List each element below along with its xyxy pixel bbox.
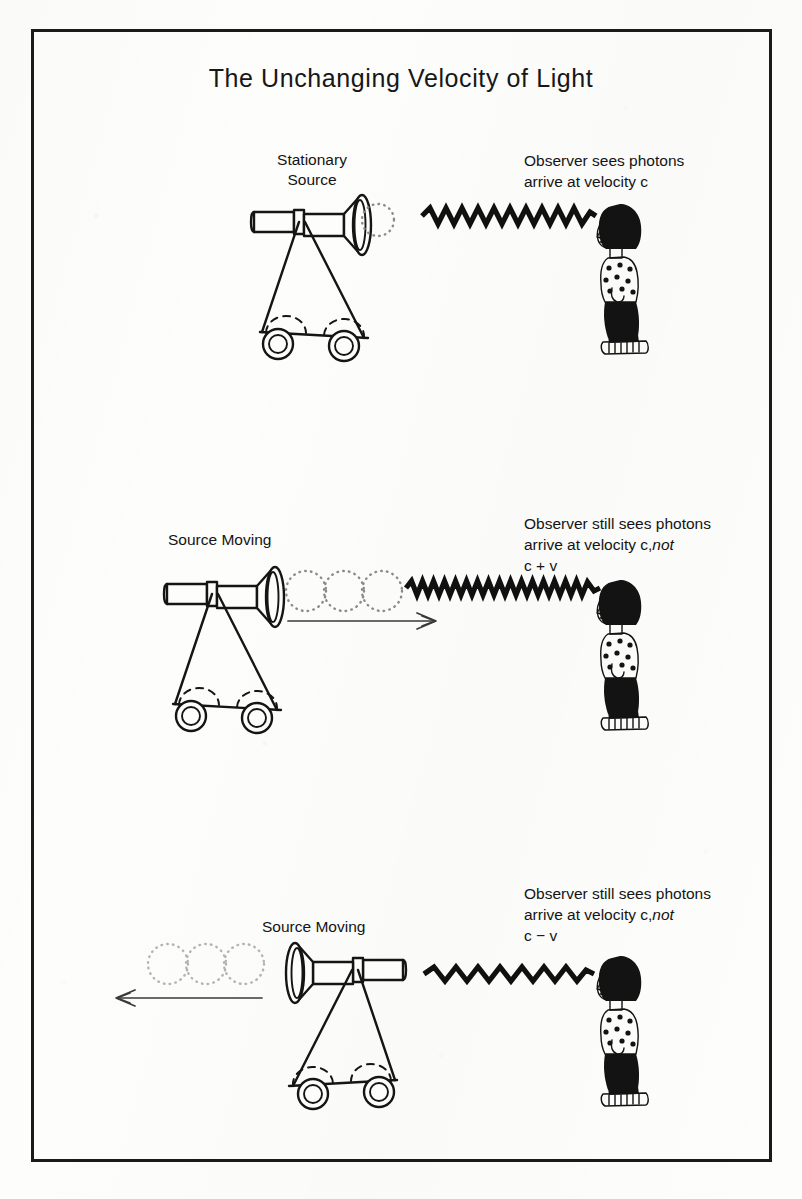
- observer-text-emphasis: not: [652, 906, 674, 923]
- panel-stationary-source-label: Stationary Source: [232, 150, 392, 190]
- motion-arrow-icon: [286, 608, 442, 634]
- observer-text-line-2: arrive at velocity c,not: [524, 534, 769, 555]
- panel-receding-observer-text: Observer still sees photons arrive at ve…: [524, 883, 769, 946]
- light-source-cart-icon: [255, 940, 405, 1110]
- panel-stationary-observer-text: Observer sees photons arrive at velocity…: [524, 150, 754, 192]
- observer-text-emphasis: not: [652, 536, 674, 553]
- photon-circle-icon: [358, 198, 406, 242]
- observer-text-line-2: arrive at velocity c,not: [524, 904, 769, 925]
- panel-approaching-source-label: Source Moving: [168, 530, 368, 550]
- observer-person-icon: [592, 196, 656, 358]
- panel-approaching-observer-text: Observer still sees photons arrive at ve…: [524, 513, 769, 576]
- photon-wave-icon: [406, 572, 602, 604]
- panel-receding-source-label: Source Moving: [262, 917, 462, 937]
- motion-arrow-icon: [110, 985, 270, 1011]
- panel-receding-observer: [592, 948, 656, 1110]
- observer-text-line-3: c − v: [524, 925, 769, 946]
- panel-approaching-motion-arrow: [286, 608, 442, 634]
- observer-person-icon: [592, 948, 656, 1110]
- observer-text-line-1: Observer sees photons: [524, 150, 754, 171]
- observer-text-line-2: arrive at velocity c: [524, 171, 754, 192]
- observer-text-line-2-main: arrive at velocity c,: [524, 906, 652, 923]
- panel-stationary-photon-circles: [358, 198, 406, 242]
- observer-text-line-1: Observer still sees photons: [524, 883, 769, 904]
- photon-wave-icon: [424, 958, 596, 990]
- panel-receding-motion-arrow: [110, 985, 270, 1011]
- page-canvas: The Unchanging Velocity of Light Station…: [0, 0, 802, 1199]
- panel-approaching-observer: [592, 572, 656, 734]
- observer-person-icon: [592, 572, 656, 734]
- panel-approaching-photon-wave: [406, 572, 602, 604]
- photon-wave-icon: [422, 200, 598, 232]
- page-title: The Unchanging Velocity of Light: [0, 64, 802, 93]
- panel-receding-photon-wave: [424, 958, 596, 990]
- observer-text-line-1: Observer still sees photons: [524, 513, 769, 534]
- observer-text-line-2-main: arrive at velocity c,: [524, 536, 652, 553]
- panel-stationary-observer: [592, 196, 656, 358]
- panel-stationary-photon-wave: [422, 200, 598, 232]
- panel-receding-source-cart: [255, 940, 405, 1110]
